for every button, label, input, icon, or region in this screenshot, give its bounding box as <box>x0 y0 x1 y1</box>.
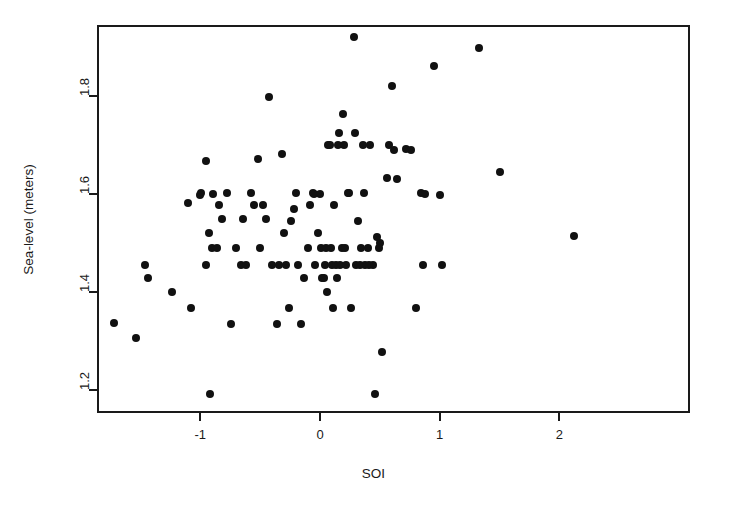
scatter-plot-figure: -1012 1.21.41.61.8 SOI Sea-level (meters… <box>0 0 747 507</box>
x-tick-label: 1 <box>436 427 443 442</box>
x-tick-label: -1 <box>195 427 207 442</box>
x-tick-mark <box>558 413 560 421</box>
x-tick-mark <box>439 413 441 421</box>
x-tick-label: 2 <box>556 427 563 442</box>
plot-frame <box>97 25 690 413</box>
x-tick-mark <box>199 413 201 421</box>
x-axis-label: SOI <box>0 466 747 481</box>
y-axis-label: Sea-level (meters) <box>21 164 36 274</box>
x-tick-label: 0 <box>316 427 323 442</box>
x-tick-mark <box>319 413 321 421</box>
